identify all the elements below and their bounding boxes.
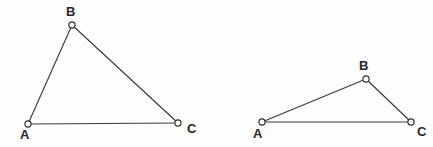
- vertex-right-c[interactable]: [408, 119, 414, 125]
- edge-left-ac: [28, 123, 178, 124]
- label-left-c: C: [187, 122, 196, 135]
- label-left-b: B: [66, 5, 75, 18]
- edge-left-ab: [28, 25, 72, 124]
- triangles-figure: A B C A B C: [0, 0, 433, 147]
- vertex-right-b[interactable]: [363, 76, 369, 82]
- vertex-right-a[interactable]: [259, 119, 265, 125]
- triangles-canvas: [0, 0, 433, 147]
- triangle-left: [25, 22, 181, 127]
- label-right-c: C: [417, 125, 426, 138]
- label-right-b: B: [359, 59, 368, 72]
- vertex-left-c[interactable]: [175, 120, 181, 126]
- label-right-a: A: [253, 127, 262, 140]
- label-left-a: A: [20, 128, 29, 141]
- edge-right-ab: [262, 79, 366, 122]
- edge-right-bc: [366, 79, 411, 122]
- vertex-left-b[interactable]: [69, 22, 75, 28]
- edge-left-bc: [72, 25, 178, 123]
- triangle-right: [259, 76, 414, 125]
